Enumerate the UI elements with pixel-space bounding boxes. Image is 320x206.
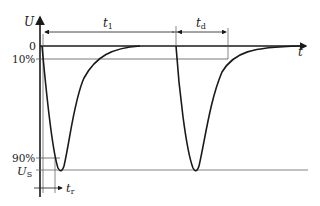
pulse-waveform-diagram: U t 0 10% 90% US t1 td tr <box>0 0 320 206</box>
tr-label: tr <box>66 181 75 196</box>
ten-percent-label: 10% <box>12 53 35 65</box>
ninety-percent-label: 90% <box>12 152 35 164</box>
t1-label: t1 <box>103 16 113 31</box>
pulse-1-curve <box>42 46 140 171</box>
zero-level-label: 0 <box>29 40 36 53</box>
pulse-2-curve <box>176 46 300 171</box>
y-axis-label: U <box>24 15 35 29</box>
x-axis-label: t <box>298 45 303 59</box>
us-level-label: US <box>17 164 32 179</box>
td-label: td <box>196 16 206 31</box>
